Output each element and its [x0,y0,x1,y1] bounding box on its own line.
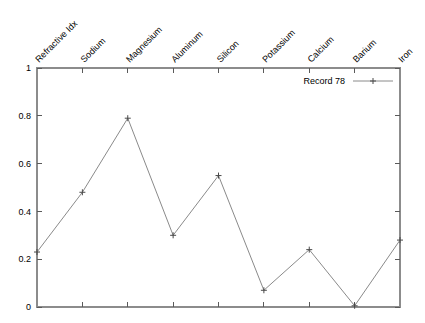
y-tick-label: 1 [26,63,31,73]
y-tick-label: 0.4 [18,207,31,217]
y-tick-label: 0 [26,302,31,312]
x-tick-label: Magnesium [124,24,164,64]
y-tick-label: 0.6 [18,159,31,169]
data-point-marker [397,237,403,243]
x-tick-label: Sodium [79,36,108,65]
x-tick-label: Refractive Idx [33,18,79,64]
plot-frame [37,68,400,307]
y-tick-label: 0.2 [18,254,31,264]
x-tick-label: Iron [396,46,414,64]
y-tick-label: 0.8 [18,111,31,121]
legend-label: Record 78 [303,76,345,86]
data-point-marker [125,115,131,121]
x-tick-label: Silicon [215,39,241,65]
x-tick-label: Potassium [260,28,297,65]
x-tick-label: Aluminum [169,29,204,64]
x-tick-label: Calcium [306,34,336,64]
x-tick-label: Barium [351,37,378,64]
series-line-1 [37,118,400,306]
chart-container: 00.20.40.60.81Refractive IdxSodiumMagnes… [0,0,425,323]
line-chart: 00.20.40.60.81Refractive IdxSodiumMagnes… [0,0,425,323]
